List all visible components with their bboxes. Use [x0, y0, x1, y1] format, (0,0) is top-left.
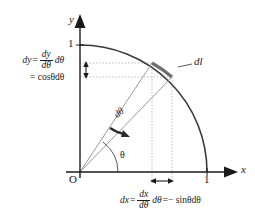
- dx-equation-fraction: dx dθ: [137, 190, 150, 210]
- dy-equation: dy = dy dθ dθ = cosθdθ: [6, 50, 64, 82]
- dl-label: dl: [194, 56, 203, 67]
- diagram-canvas: [0, 0, 255, 217]
- dy-equation-numerator: dy: [41, 50, 52, 60]
- dy-equation-denominator: dθ: [41, 61, 52, 71]
- dy-measure-arrowhead-top: [83, 61, 88, 67]
- dx-equation-suffix: dθ: [152, 195, 161, 205]
- y-axis-label: y: [69, 14, 74, 25]
- dy-equation-fraction: dy dθ: [40, 50, 53, 70]
- radius-lower: [80, 77, 172, 172]
- theta-label: θ: [120, 150, 125, 160]
- dy-measure-arrowhead-bottom: [83, 73, 88, 79]
- origin-label: O: [69, 174, 77, 185]
- x-axis-label: x: [241, 164, 246, 175]
- y-axis-arrowhead: [75, 14, 86, 28]
- dx-equation-equals: =: [130, 195, 135, 205]
- dtheta-arrowhead: [121, 130, 130, 137]
- dx-equation-tail: =− sinθdθ: [163, 195, 201, 205]
- dy-equation-line1: dy = dy dθ dθ: [23, 50, 65, 70]
- x-axis-tick-label-1: 1: [204, 174, 210, 185]
- dx-equation-line1: dx = dx dθ dθ =− sinθdθ: [120, 190, 201, 210]
- dy-equation-suffix: dθ: [55, 55, 64, 65]
- dy-equation-line2: = cosθdθ: [6, 72, 64, 82]
- x-axis-arrowhead: [224, 167, 238, 178]
- dx-equation-numerator: dx: [138, 190, 149, 200]
- dx-equation: dx = dx dθ dθ =− sinθdθ: [120, 190, 201, 210]
- dy-equation-lhs: dy: [23, 55, 32, 65]
- dx-equation-lhs: dx: [120, 195, 129, 205]
- dx-measure-arrowhead-right: [168, 178, 174, 183]
- unit-circle-differential-diagram: y x 1 1 O θ dθ dl dy = dy dθ dθ = cosθdθ…: [0, 0, 255, 217]
- y-axis-tick-label-1: 1: [68, 38, 74, 49]
- dy-equation-equals: =: [32, 55, 37, 65]
- dx-equation-denominator: dθ: [138, 201, 149, 211]
- dx-measure-arrowhead-left: [150, 178, 156, 183]
- dl-leader-line: [178, 64, 192, 67]
